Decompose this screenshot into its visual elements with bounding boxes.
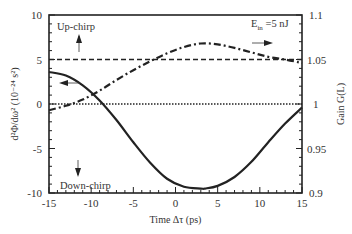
- y-right-tick-label: 1: [313, 98, 319, 110]
- y-right-tick-label: 0.95: [307, 143, 327, 155]
- y-right-axis-title: Gain G(L): [335, 83, 347, 125]
- y-left-tick-label: 0: [37, 98, 43, 110]
- x-tick-label: 15: [297, 197, 309, 209]
- y-left-tick-label: -10: [27, 187, 42, 199]
- y-left-tick-label: 10: [31, 9, 43, 21]
- x-tick-label: -5: [129, 197, 139, 209]
- right-arrow-icon: [252, 40, 273, 46]
- up-chirp-label: Up-chirp: [57, 21, 95, 32]
- x-tick-label: 5: [215, 197, 221, 209]
- down-arrow-icon: [75, 160, 81, 177]
- x-tick-label: -15: [42, 197, 57, 209]
- y-left-tick-label: 5: [37, 54, 43, 66]
- energy-annotation: Ein =5 nJ: [251, 18, 289, 32]
- x-tick-label: -10: [84, 197, 99, 209]
- y-right-tick-label: 0.9: [309, 187, 323, 199]
- x-tick-label: 0: [173, 197, 179, 209]
- y-right-tick-label: 1.1: [309, 9, 323, 21]
- y-left-axis-title: d²Φ/dω² (10⁻²⁴ s²): [9, 68, 21, 141]
- x-tick-label: 10: [254, 197, 266, 209]
- x-axis-title: Time Δτ (ps): [150, 214, 202, 226]
- gain-curve: [49, 43, 302, 110]
- y-right-tick-labels: 1.1 1.05 1 0.95 0.9: [307, 9, 327, 199]
- down-chirp-label: Down-chirp: [60, 180, 111, 191]
- y-left-tick-labels: 10 5 0 -5 -10: [27, 9, 42, 199]
- chart-canvas: -15 -10 -5 0 5 10 15 10 5 0 -5 -10 1.1 1…: [0, 0, 352, 234]
- x-tick-labels: -15 -10 -5 0 5 10 15: [42, 197, 308, 209]
- chirp-curve: [49, 72, 302, 189]
- y-right-tick-label: 1.05: [307, 54, 327, 66]
- up-arrow-icon: [76, 34, 82, 52]
- y-left-tick-label: -5: [33, 143, 43, 155]
